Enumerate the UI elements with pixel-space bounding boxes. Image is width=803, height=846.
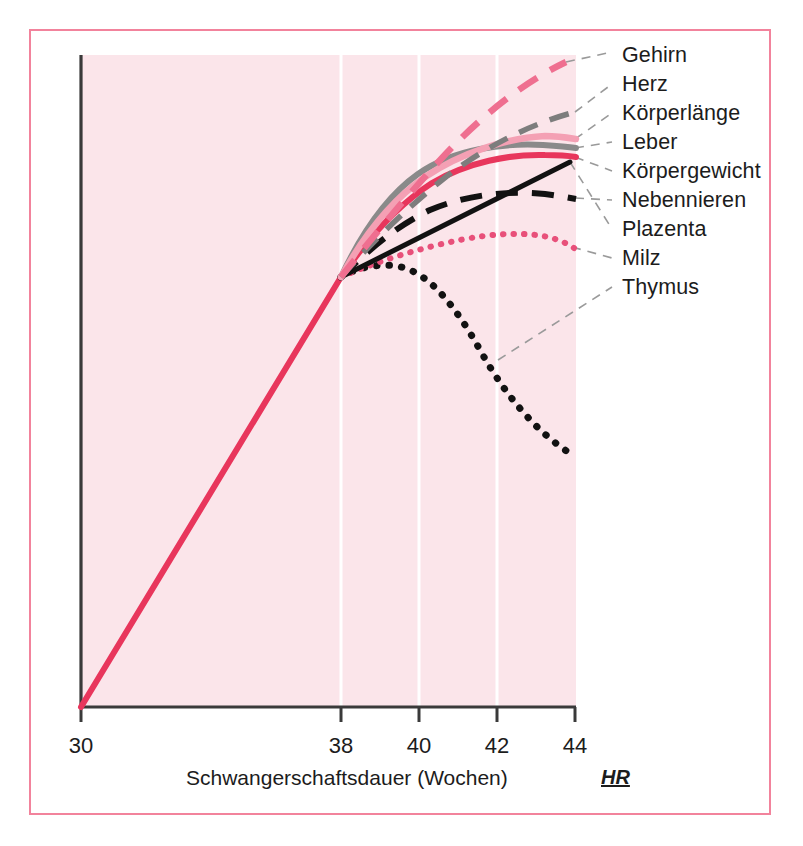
xtick-label-30: 30 (61, 733, 101, 759)
series-label-plazenta: Plazenta (622, 217, 706, 242)
leader-line-leber (575, 142, 612, 148)
series-label-koerperlaenge: Körperlänge (622, 101, 740, 126)
leader-line-herz (575, 84, 612, 112)
series-label-leber: Leber (622, 130, 678, 155)
growth-curve-chart (0, 0, 803, 846)
series-label-koerpergewicht: Körpergewicht (622, 159, 761, 184)
x-axis-title: Schwangerschaftsdauer (Wochen) (186, 766, 508, 790)
series-label-milz: Milz (622, 246, 661, 271)
leader-line-nebennieren (575, 198, 612, 200)
leader-line-koerpergewicht (575, 157, 612, 171)
xtick-label-38: 38 (321, 733, 361, 759)
xtick-label-42: 42 (477, 733, 517, 759)
artist-signature: HR (601, 766, 630, 789)
xtick-label-44: 44 (555, 733, 595, 759)
series-label-herz: Herz (622, 72, 668, 97)
plot-area-background (81, 55, 576, 707)
leader-line-plazenta (570, 162, 612, 229)
leader-line-milz (572, 247, 612, 258)
xtick-label-40: 40 (399, 733, 439, 759)
series-label-thymus: Thymus (622, 275, 699, 300)
leader-line-koerperlaenge (575, 113, 612, 139)
series-label-nebennieren: Nebennieren (622, 188, 746, 213)
series-label-gehirn: Gehirn (622, 43, 687, 68)
